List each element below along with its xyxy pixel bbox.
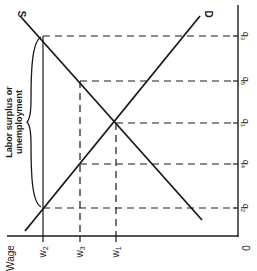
annotation-line1: Labor surplus or <box>4 86 14 158</box>
quantity-label-q5: q5 <box>240 77 251 86</box>
wage-axis-title: Wage <box>5 245 16 271</box>
annotation-line2: unemployment <box>14 90 24 154</box>
quantity-label-q2: q2 <box>240 204 251 213</box>
demand-label: D <box>203 10 214 17</box>
labor-surplus-brace <box>27 37 41 207</box>
demand-curve <box>25 16 200 231</box>
labor-market-diagram: S D Labor surplus or unemployment Wage w… <box>0 0 257 271</box>
wage-label-w2: w2 <box>37 246 49 258</box>
quantity-label-q3: q3 <box>240 32 251 41</box>
wage-label-w1: w1 <box>110 246 122 258</box>
wage-label-w3: w3 <box>74 246 86 258</box>
quantity-label-q1: q1 <box>240 119 251 128</box>
supply-label: S <box>16 11 27 18</box>
quantity-label-q4: q4 <box>240 160 251 169</box>
origin-label: 0 <box>240 245 251 251</box>
